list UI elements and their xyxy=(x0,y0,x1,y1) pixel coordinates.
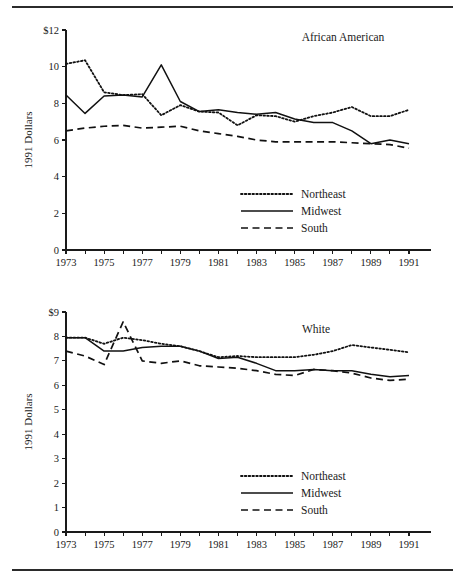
legend-label-south: South xyxy=(301,222,328,234)
y-tick-label: 8 xyxy=(54,331,59,342)
x-tick-label: 1977 xyxy=(132,539,153,550)
legend-label-midwest: Midwest xyxy=(301,487,342,499)
x-tick-label: 1979 xyxy=(170,539,191,550)
x-tick-label: 1989 xyxy=(360,539,381,550)
chart-legend: NortheastMidwestSouth xyxy=(241,188,347,234)
x-tick-label: 1975 xyxy=(94,257,115,268)
y-tick-label: 4 xyxy=(54,429,60,440)
chart-panel-white: 012345678$919731975197719791981198319851… xyxy=(0,300,465,565)
series-line-northeast xyxy=(66,338,409,358)
series-line-south xyxy=(66,125,409,148)
x-tick-label: 1977 xyxy=(132,257,153,268)
bottom-rule xyxy=(12,569,453,571)
y-axis-title: 1991 Dollars xyxy=(22,111,34,168)
chart-title: White xyxy=(302,323,330,335)
x-tick-label: 1991 xyxy=(399,257,420,268)
series-line-midwest xyxy=(66,65,409,144)
y-tick-label: 6 xyxy=(54,380,59,391)
x-tick-label: 1987 xyxy=(322,539,343,550)
y-tick-label: 1 xyxy=(54,502,59,513)
y-tick-label: 5 xyxy=(54,404,59,415)
legend-label-midwest: Midwest xyxy=(301,205,342,217)
y-tick-label: 3 xyxy=(54,453,59,464)
chart-title: African American xyxy=(302,31,385,43)
x-tick-label: 1973 xyxy=(56,257,77,268)
legend-label-south: South xyxy=(301,504,328,516)
x-tick-label: 1987 xyxy=(322,257,343,268)
x-tick-label: 1989 xyxy=(360,257,381,268)
y-tick-label: $9 xyxy=(49,307,60,318)
series-line-northeast xyxy=(66,60,409,125)
y-tick-label: $12 xyxy=(43,25,59,36)
legend-label-northeast: Northeast xyxy=(301,188,347,200)
y-tick-label: 0 xyxy=(54,245,59,256)
legend-label-northeast: Northeast xyxy=(301,470,347,482)
x-tick-label: 1981 xyxy=(208,539,229,550)
y-tick-label: 2 xyxy=(54,478,59,489)
x-tick-label: 1981 xyxy=(208,257,229,268)
y-tick-label: 7 xyxy=(54,355,59,366)
chart-panel-african-american: 0246810$12197319751977197919811983198519… xyxy=(0,14,465,284)
y-tick-label: 0 xyxy=(54,527,59,538)
x-tick-label: 1983 xyxy=(246,539,267,550)
y-tick-label: 8 xyxy=(54,98,59,109)
line-chart-african-american: 0246810$12197319751977197919811983198519… xyxy=(0,14,465,284)
y-tick-label: 6 xyxy=(54,135,59,146)
series-line-midwest xyxy=(66,338,409,377)
y-axis-title: 1991 Dollars xyxy=(22,393,34,450)
y-tick-label: 2 xyxy=(54,208,59,219)
x-tick-label: 1973 xyxy=(56,539,77,550)
y-tick-label: 4 xyxy=(54,171,60,182)
x-tick-label: 1991 xyxy=(399,539,420,550)
chart-legend: NortheastMidwestSouth xyxy=(241,470,347,516)
x-tick-label: 1979 xyxy=(170,257,191,268)
x-tick-label: 1983 xyxy=(246,257,267,268)
x-tick-label: 1975 xyxy=(94,539,115,550)
top-rule xyxy=(12,6,453,8)
figure-page: 0246810$12197319751977197919811983198519… xyxy=(0,0,465,579)
line-chart-white: 012345678$919731975197719791981198319851… xyxy=(0,300,465,565)
x-tick-label: 1985 xyxy=(284,257,305,268)
y-tick-label: 10 xyxy=(49,61,60,72)
x-tick-label: 1985 xyxy=(284,539,305,550)
